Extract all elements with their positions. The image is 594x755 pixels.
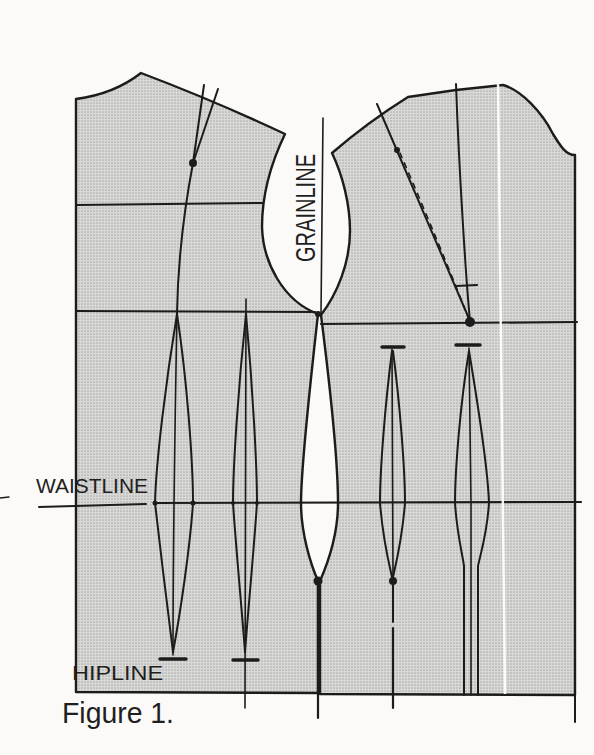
hipline-label: HIPLINE <box>72 661 163 684</box>
dart-waist-junction <box>191 501 196 506</box>
dart-center-line <box>392 349 393 578</box>
waistline-main <box>154 502 581 503</box>
bust-line-back <box>76 311 315 312</box>
pivot-mark-dot <box>394 147 400 153</box>
dart-waist-junction <box>231 501 235 505</box>
page-edge-tick <box>0 497 9 498</box>
figure-caption: Figure 1. <box>62 697 174 729</box>
dart-waist-junction <box>153 501 158 506</box>
scanned-book-page: GRAINLINE WAISTLINE HIPLINE Figure 1. <box>0 0 594 755</box>
dart-waist-junction <box>255 501 259 505</box>
bust-point-dot <box>465 317 475 327</box>
grainline-label: GRAINLINE <box>291 154 321 262</box>
dart-point-dot <box>389 577 397 585</box>
waistline-label: WAISTLINE <box>36 474 148 497</box>
sewing-pattern-diagram: GRAINLINE WAISTLINE HIPLINE Figure 1. <box>0 0 594 755</box>
underarm-junction-point <box>315 311 321 317</box>
dart-length-tick <box>456 285 477 286</box>
front-bodice-piece <box>320 85 575 695</box>
